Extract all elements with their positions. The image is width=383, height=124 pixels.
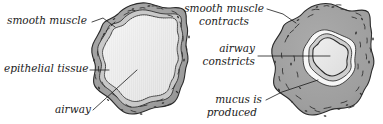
label-epithelial-tissue: epithelial tissue (4, 62, 89, 74)
label-smooth-muscle: smooth muscle (7, 14, 87, 26)
label-airway: airway (55, 103, 92, 115)
label-smooth-muscle-contracts: smooth muscle (184, 2, 264, 14)
label-smooth-muscle-contracts-line2: contracts (199, 15, 250, 27)
label-airway-constricts-line2: constricts (203, 55, 256, 67)
label-mucus-is-produced-line2: produced (207, 106, 258, 118)
label-mucus-is-produced: mucus is (215, 93, 262, 105)
label-airway-constricts: airway (219, 42, 256, 54)
diagram-canvas: smooth muscle epithelial tissue airway (0, 0, 383, 124)
airway-diagram-figure: smooth muscle epithelial tissue airway (0, 0, 383, 124)
